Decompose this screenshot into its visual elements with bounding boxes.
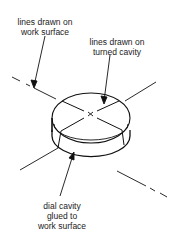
label-turned-cavity: lines drawn on turned cavity xyxy=(84,37,150,57)
label-dial-cavity-line1: dial cavity xyxy=(29,201,95,211)
label-dial-cavity-line3: work surface xyxy=(29,221,95,231)
turned-cavity-surface-marks xyxy=(58,130,124,148)
label-turned-cavity-line2: turned cavity xyxy=(84,47,150,57)
label-dial-cavity: dial cavity glued to work surface xyxy=(29,201,95,231)
label-work-surface-line1: lines drawn on xyxy=(12,17,78,27)
label-dial-cavity-line2: glued to xyxy=(29,211,95,221)
turned-cavity-lines xyxy=(61,101,122,131)
label-work-surface: lines drawn on work surface xyxy=(12,17,78,37)
label-turned-cavity-line1: lines drawn on xyxy=(84,37,150,47)
dial-cavity-disc xyxy=(52,93,130,157)
leader-arrows xyxy=(31,36,110,196)
work-surface-line-a xyxy=(12,77,167,197)
center-mark-icon xyxy=(88,112,93,116)
label-work-surface-line2: work surface xyxy=(12,27,78,37)
